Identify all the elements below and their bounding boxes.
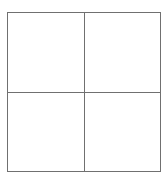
horizontal-divider [8,92,160,93]
grid-2x2 [7,12,161,172]
cell-bottom-right [85,93,161,171]
cell-bottom-left [8,93,84,171]
cell-top-right [85,13,161,92]
cell-top-left [8,13,84,92]
